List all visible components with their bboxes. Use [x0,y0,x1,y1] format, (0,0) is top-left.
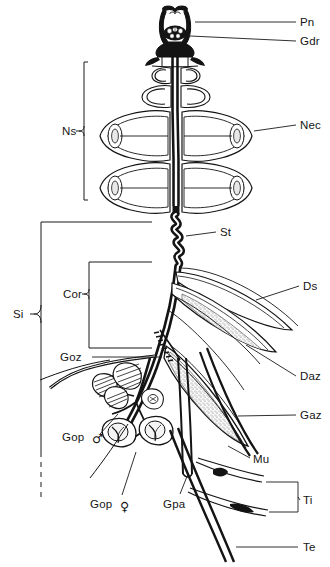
label-si: Si [13,308,24,320]
label-gop-male: Gop [62,431,84,443]
female-symbol-icon: ♀ [120,499,129,514]
gland-cluster [164,26,187,41]
label-mu: Mu [253,453,269,465]
label-goz: Goz [60,351,82,363]
convoluted-duct-segment [174,214,182,266]
label-te: Te [303,541,316,553]
label-ds: Ds [303,280,318,292]
label-gpa: Gpa [163,498,186,510]
label-pn: Pn [300,16,314,28]
label-cor: Cor [63,288,82,300]
anatomical-figure: Pn Gdr Nec Ns St Ds Daz Gaz Si Cor Goz G… [0,0,330,567]
label-ti: Ti [303,494,313,506]
label-nec: Nec [300,119,321,131]
label-ns: Ns [62,125,77,137]
label-st: St [220,226,232,238]
male-symbol-icon: ♂ [92,431,103,446]
label-gaz: Gaz [300,409,322,421]
diagram-canvas: Pn Gdr Nec Ns St Ds Daz Gaz Si Cor Goz G… [0,0,330,567]
label-gdr: Gdr [300,35,320,47]
label-gop-female: Gop [90,498,112,510]
label-daz: Daz [300,370,321,382]
main-duct [175,56,176,214]
